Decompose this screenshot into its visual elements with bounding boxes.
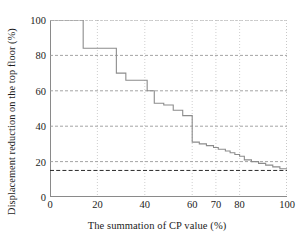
x-tick-label: 0 — [47, 199, 52, 210]
y-axis-label: Displacement reduction on the top floor … — [0, 0, 22, 243]
y-tick-label: 20 — [36, 156, 47, 167]
y-tick-label: 100 — [30, 15, 46, 26]
chart-canvas — [50, 20, 287, 197]
x-tick-label: 70 — [211, 199, 222, 210]
horizontal-gridlines — [50, 20, 287, 162]
displacement-reduction-step-line — [50, 20, 287, 170]
plot-area: 020406080100 02040607080100 — [50, 20, 287, 197]
x-tick-label: 80 — [234, 199, 245, 210]
y-tick-label: 80 — [36, 50, 47, 61]
x-tick-label: 100 — [279, 199, 295, 210]
figure: Displacement reduction on the top floor … — [0, 0, 308, 243]
x-axis-label: The summation of CP value (%) — [22, 220, 292, 231]
y-tick-label: 60 — [36, 85, 47, 96]
x-tick-label: 60 — [187, 199, 198, 210]
y-tick-label: 0 — [41, 192, 46, 203]
y-tick-label: 40 — [36, 121, 47, 132]
x-tick-label: 20 — [92, 199, 103, 210]
x-tick-label: 40 — [140, 199, 151, 210]
